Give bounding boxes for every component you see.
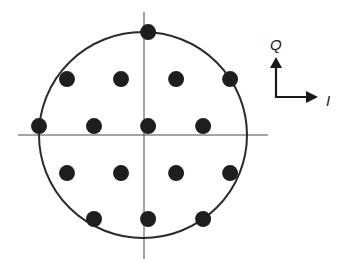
constellation-point: [222, 165, 238, 181]
constellation-point: [195, 211, 211, 227]
constellation-point: [168, 165, 184, 181]
constellation-point: [140, 118, 156, 134]
constellation-diagram: Q I: [0, 0, 358, 259]
q-arrow-icon: [270, 57, 282, 68]
constellation-plot: Q I: [0, 0, 358, 259]
i-arrow-icon: [306, 91, 318, 103]
q-axis-label: Q: [270, 36, 282, 53]
constellation-point: [222, 71, 238, 87]
i-axis-label: I: [326, 92, 330, 109]
constellation-point: [59, 165, 75, 181]
constellation-point: [113, 165, 129, 181]
constellation-point: [31, 118, 47, 134]
iq-axes-legend: Q I: [270, 36, 330, 109]
constellation-point: [113, 71, 129, 87]
constellation-point: [140, 24, 156, 40]
constellation-point: [59, 71, 75, 87]
constellation-point: [86, 118, 102, 134]
constellation-point: [86, 211, 102, 227]
constellation-point: [168, 71, 184, 87]
constellation-point: [195, 118, 211, 134]
constellation-point: [140, 211, 156, 227]
